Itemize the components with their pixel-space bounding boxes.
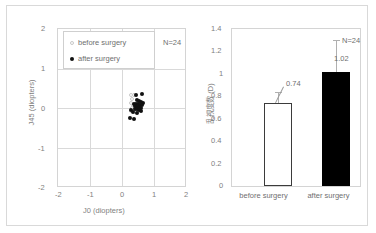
scatter-point	[135, 111, 139, 115]
bar-y-tick: 0.6	[211, 114, 221, 123]
filled-circle-marker-icon	[70, 57, 74, 61]
bar-value-label: 1.02	[334, 54, 349, 63]
scatter-y-tick: 1	[41, 64, 45, 73]
scatter-gridline-h	[58, 108, 185, 109]
bar-value-label: 0.74	[286, 79, 301, 88]
bar-category-label: before surgery	[231, 191, 296, 200]
legend-label: before surgery	[78, 38, 126, 47]
scatter-y-axis-title: J45 (diopters)	[27, 61, 36, 145]
bar-y-tick: 0.4	[211, 136, 221, 145]
scatter-x-tick: -1	[87, 190, 94, 199]
bar-y-tick: 1.4	[211, 24, 221, 33]
scatter-point	[131, 110, 135, 114]
scatter-y-tick: 2	[41, 24, 45, 33]
bar-y-tick: 0.8	[211, 91, 221, 100]
bar-before-surgery	[264, 103, 292, 186]
scatter-sample-size-annotation: N=24	[161, 37, 183, 48]
scatter-x-axis-title: J0 (diopters)	[83, 206, 125, 215]
error-bar-cap	[333, 40, 340, 41]
bar-category-label: after surgery	[296, 191, 361, 200]
scatter-x-tick: -2	[55, 190, 62, 199]
open-circle-marker-icon	[70, 41, 74, 45]
bar-sample-size-annotation: N=24	[342, 36, 360, 45]
scatter-y-tick: -2	[38, 183, 45, 192]
bar-y-tick: 1	[219, 69, 223, 78]
bar-y-tick: 0	[219, 181, 223, 190]
bar-after-surgery	[322, 72, 350, 186]
legend-item-after-surgery: after surgery	[70, 54, 120, 63]
scatter-x-tick: 2	[184, 190, 188, 199]
bar-y-tick: 0.2	[211, 159, 221, 168]
bar-label-leader-line	[275, 87, 284, 103]
bar-plot-area: 0.74 1.02 N=24	[231, 28, 361, 187]
scatter-point	[140, 92, 144, 96]
scatter-x-tick: 1	[152, 190, 156, 199]
scatter-chart: J45 (diopters) 2 1 0 -1 -2 before surger…	[11, 10, 201, 223]
legend-item-before-surgery: before surgery	[70, 38, 126, 47]
legend-label: after surgery	[78, 54, 120, 63]
scatter-point	[132, 117, 136, 121]
bar-chart: 乱視度数 (D) 1.4 1.2 1 0.8 0.6 0.4 0.2 0 0.7…	[197, 10, 373, 223]
bar-y-axis-title: 乱視度数 (D)	[204, 62, 215, 146]
bar-y-tick: 1.2	[211, 46, 221, 55]
scatter-legend: before surgery after surgery	[63, 31, 155, 69]
scatter-gridline-h	[58, 148, 185, 149]
scatter-y-tick: 0	[41, 104, 45, 113]
scatter-gridline-h	[58, 69, 185, 70]
figure-frame: J45 (diopters) 2 1 0 -1 -2 before surger…	[6, 5, 368, 226]
scatter-x-tick: 0	[120, 190, 124, 199]
scatter-point	[134, 93, 138, 97]
scatter-y-tick: -1	[38, 144, 45, 153]
